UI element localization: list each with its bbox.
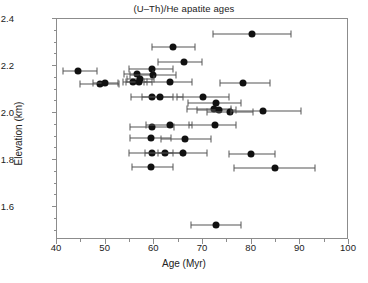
x-minor-tick-mark — [226, 239, 227, 242]
error-bar-cap — [189, 121, 190, 128]
error-bar-cap — [161, 135, 162, 142]
error-bar-cap — [145, 121, 146, 128]
data-point — [148, 164, 155, 171]
error-bar-cap — [130, 93, 131, 100]
data-point — [249, 30, 256, 37]
data-point — [135, 79, 142, 86]
x-minor-tick-mark — [324, 239, 325, 242]
error-bar-cap — [229, 93, 230, 100]
data-point — [182, 135, 189, 142]
data-point — [179, 150, 186, 157]
error-bar-cap — [96, 67, 97, 74]
error-bar-cap — [141, 93, 142, 100]
x-tick-label: 40 — [36, 242, 76, 253]
error-bar-cap — [240, 99, 241, 106]
data-point — [181, 59, 188, 66]
error-bar-cap — [143, 79, 144, 86]
data-point — [167, 121, 174, 128]
error-bar-cap — [270, 79, 271, 86]
data-point — [101, 80, 108, 87]
error-bar-cap — [80, 80, 81, 87]
scatter-data-layer — [56, 18, 348, 239]
data-point — [260, 108, 267, 115]
error-bar-cap — [172, 164, 173, 171]
error-bar-cap — [124, 71, 125, 78]
error-bar-cap — [129, 72, 130, 79]
error-bar-cap — [158, 59, 159, 66]
error-bar-cap — [119, 80, 120, 87]
data-point — [156, 93, 163, 100]
error-bar-cap — [301, 108, 302, 115]
error-bar-cap — [131, 164, 132, 171]
error-bar-cap — [234, 164, 235, 171]
data-point — [148, 135, 155, 142]
x-axis-label: Age (Myr) — [0, 258, 368, 269]
error-bar-cap — [175, 72, 176, 79]
error-bar-cap — [158, 150, 159, 157]
data-point — [211, 121, 218, 128]
y-tick-label: 2.4 — [0, 13, 14, 24]
x-minor-tick-mark — [178, 239, 179, 242]
error-bar-cap — [240, 221, 241, 228]
error-bar-cap — [236, 121, 237, 128]
error-bar-cap — [197, 106, 198, 113]
x-tick-label: 70 — [182, 242, 222, 253]
data-point — [166, 79, 173, 86]
data-point — [74, 67, 81, 74]
data-point — [247, 150, 254, 157]
data-point — [199, 93, 206, 100]
error-bar-cap — [275, 150, 276, 157]
error-bar-cap — [252, 109, 253, 116]
error-bar-cap — [202, 59, 203, 66]
error-bar-cap — [126, 79, 127, 86]
error-bar-cap — [229, 150, 230, 157]
error-bar-cap — [191, 221, 192, 228]
x-tick-label: 100 — [328, 242, 368, 253]
x-tick-label: 90 — [279, 242, 319, 253]
error-bar-cap — [118, 80, 119, 87]
chart-figure: (U–Th)/He apatite ages 1.61.82.02.22.4 4… — [0, 0, 368, 283]
chart-title: (U–Th)/He apatite ages — [0, 3, 368, 14]
x-tick-label: 60 — [133, 242, 173, 253]
error-bar-cap — [290, 30, 291, 37]
error-bar-cap — [314, 164, 315, 171]
y-axis-label: Elevation (km) — [13, 64, 24, 204]
error-bar-cap — [152, 43, 153, 50]
error-bar-cap — [192, 79, 193, 86]
data-point — [239, 79, 246, 86]
error-bar-cap — [188, 99, 189, 106]
error-bar-cap — [187, 106, 188, 113]
error-bar-cap — [123, 79, 124, 86]
error-bar-cap — [231, 108, 232, 115]
error-bar-cap — [176, 93, 177, 100]
x-minor-tick-mark — [275, 239, 276, 242]
error-bar-cap — [210, 135, 211, 142]
x-minor-tick-mark — [129, 239, 130, 242]
error-bar-cap — [129, 135, 130, 142]
x-minor-tick-mark — [80, 239, 81, 242]
error-bar-cap — [213, 30, 214, 37]
data-point — [212, 221, 219, 228]
x-tick-label: 80 — [231, 242, 271, 253]
data-point — [271, 164, 278, 171]
error-bar-cap — [144, 150, 145, 157]
error-bar-cap — [206, 150, 207, 157]
error-bar-cap — [219, 79, 220, 86]
error-bar-cap — [129, 123, 130, 130]
data-point — [169, 43, 176, 50]
error-bar-cap — [92, 80, 93, 87]
x-tick-label: 50 — [85, 242, 125, 253]
error-bar-cap — [172, 65, 173, 72]
error-bar-cap — [63, 67, 64, 74]
error-bar-cap — [129, 150, 130, 157]
error-bar-cap — [195, 43, 196, 50]
error-bar-cap — [206, 109, 207, 116]
